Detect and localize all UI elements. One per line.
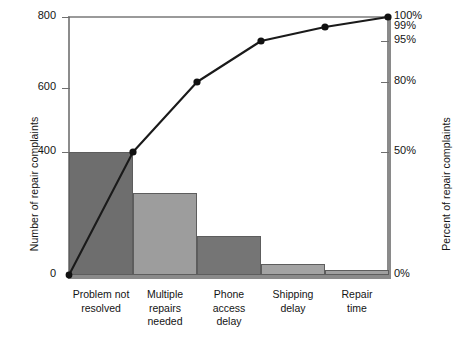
y-axis-title-left: Number of repair complaints: [28, 74, 40, 294]
x-axis-category-label-line: Shipping: [261, 288, 325, 302]
y-axis-right-tick: [381, 152, 389, 154]
x-axis-category-label-line: Problem not: [69, 288, 133, 302]
y-axis-right-tick-label: 0%: [394, 267, 442, 279]
x-axis-category-label-line: delay: [261, 302, 325, 316]
cumulative-percent-marker: [193, 78, 200, 85]
y-axis-right-line: [387, 16, 391, 277]
x-axis-category-label-line: Multiple: [133, 288, 197, 302]
y-axis-left-tick-label: 600: [4, 80, 56, 92]
bar-multiple-repairs-needed: [133, 193, 197, 275]
y-axis-left-tick: [62, 17, 70, 19]
y-axis-left-tick: [62, 88, 70, 90]
x-axis-category-label-line: time: [325, 302, 389, 316]
x-axis-category-label-line: Repair: [325, 288, 389, 302]
x-axis-category-label: Multiplerepairsneeded: [133, 288, 197, 329]
x-axis-category-label-line: delay: [197, 315, 261, 329]
bar-phone-access-delay: [197, 236, 261, 275]
x-axis-line: [68, 275, 391, 279]
x-axis-category-label: Repairtime: [325, 288, 389, 315]
x-axis-category-label: Shippingdelay: [261, 288, 325, 315]
bar-problem-not-resolved: [69, 152, 133, 275]
y-axis-title-right: Percent of repair complaints: [440, 74, 452, 294]
y-axis-right-tick: [381, 41, 389, 43]
cumulative-percent-marker: [257, 37, 264, 44]
y-axis-left-tick-label: 800: [4, 9, 56, 21]
y-axis-left-tick-label: 0: [4, 267, 56, 279]
y-axis-right-tick-label: 95%: [394, 33, 442, 45]
x-axis-category-label-line: access: [197, 302, 261, 316]
x-axis-category-label-line: repairs: [133, 302, 197, 316]
x-axis-category-label-line: resolved: [69, 302, 133, 316]
pareto-chart: Number of repair complaints Percent of r…: [0, 0, 460, 346]
y-axis-left-tick-label: 400: [4, 144, 56, 156]
x-axis-category-label: Problem notresolved: [69, 288, 133, 315]
y-axis-right-tick-label: 80%: [394, 74, 442, 86]
x-axis-category-label-line: needed: [133, 315, 197, 329]
y-axis-right-tick-label: 99%: [394, 19, 442, 31]
x-axis-category-label-line: Phone: [197, 288, 261, 302]
y-axis-right-tick: [381, 82, 389, 84]
y-axis-right-tick-label: 50%: [394, 144, 442, 156]
bar-repair-time: [325, 270, 389, 275]
x-axis-category-label: Phoneaccessdelay: [197, 288, 261, 329]
cumulative-percent-marker: [321, 23, 328, 30]
plot-frame-top: [68, 16, 390, 18]
bar-shipping-delay: [261, 264, 325, 275]
